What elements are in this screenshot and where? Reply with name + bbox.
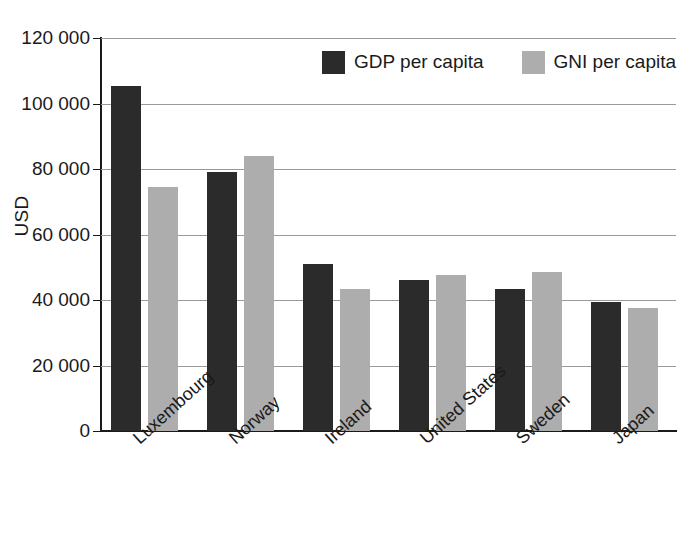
legend-swatch-icon-gni	[522, 51, 545, 74]
y-axis-tick-label: 80 000	[32, 158, 90, 180]
tick-mark	[93, 300, 101, 301]
y-axis-tick-label: 60 000	[32, 224, 90, 246]
bars-layer	[101, 38, 676, 431]
y-axis-tick-label: 0	[79, 420, 90, 442]
tick-mark	[93, 235, 101, 236]
bar	[244, 156, 274, 431]
legend-item-gni: GNI per capita	[522, 51, 677, 74]
tick-mark	[93, 38, 101, 39]
tick-mark	[93, 431, 101, 432]
bar	[399, 280, 429, 431]
y-axis-tick-label: 100 000	[21, 93, 90, 115]
y-axis-title: USD	[11, 176, 33, 256]
legend-item-gdp: GDP per capita	[322, 51, 484, 74]
plot-area: 020 00040 00060 00080 000100 000120 000	[101, 38, 676, 431]
bar	[207, 172, 237, 431]
bar	[591, 302, 621, 431]
x-axis-labels: LuxembourgNorwayIrelandUnited StatesSwed…	[101, 433, 676, 553]
bar	[111, 86, 141, 432]
y-axis-tick-label: 40 000	[32, 289, 90, 311]
legend-label-gni: GNI per capita	[554, 51, 677, 73]
tick-mark	[93, 366, 101, 367]
legend-label-gdp: GDP per capita	[354, 51, 484, 73]
bar-chart: USD 020 00040 00060 00080 000100 000120 …	[0, 0, 697, 556]
tick-mark	[93, 104, 101, 105]
chart-legend: GDP per capita GNI per capita	[322, 48, 676, 76]
bar	[303, 264, 333, 431]
y-axis-tick-label: 120 000	[21, 27, 90, 49]
y-axis-tick-label: 20 000	[32, 355, 90, 377]
bar	[495, 289, 525, 431]
tick-mark	[93, 169, 101, 170]
legend-swatch-icon-gdp	[322, 51, 345, 74]
